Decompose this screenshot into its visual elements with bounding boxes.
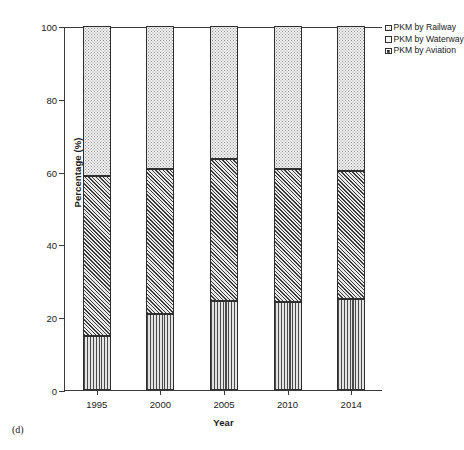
stacked-bar [146,26,174,390]
legend-swatch-icon [385,36,392,43]
bar-segment [274,26,302,169]
y-tick-label: 80 [46,94,57,105]
x-tick-mark [160,390,161,395]
bar-segment [210,301,238,390]
bar-segment [337,26,365,171]
panel-caption: (d) [12,424,24,435]
bar-segment [146,169,174,314]
bar-segment [274,302,302,390]
legend-item: PKM by Waterway [385,34,464,46]
bar-segment [146,314,174,390]
x-tick-label: 2010 [277,399,298,410]
plot-area: Percentage (%) 020406080100 199520002005… [64,27,382,391]
y-tick-mark [59,245,65,246]
bar-segment [146,26,174,169]
stacked-bar [337,26,365,390]
x-tick-mark [288,390,289,395]
stacked-bar [210,26,238,390]
y-tick-mark [59,318,65,319]
stacked-bar [83,26,111,390]
bar-segment [83,176,111,336]
bar-segment [337,299,365,390]
legend-swatch-icon [385,48,392,55]
y-tick-mark [59,27,65,28]
y-tick-label: 100 [41,22,57,33]
x-tick-label: 1995 [86,399,107,410]
y-axis-title: Percentage (%) [72,113,83,233]
legend-swatch-icon [385,25,392,32]
x-tick-mark [351,390,352,395]
x-axis-title: Year [65,417,382,428]
bar-segment [274,169,302,302]
legend-item: PKM by Aviation [385,45,464,57]
stacked-bar [274,26,302,390]
x-tick-label: 2014 [341,399,362,410]
bar-segment [210,26,238,159]
y-tick-mark [59,173,65,174]
x-tick-mark [224,390,225,395]
bar-segment [83,336,111,390]
x-tick-label: 2005 [213,399,234,410]
legend-item-label: PKM by Aviation [394,45,456,57]
legend: PKM by RailwayPKM by WaterwayPKM by Avia… [385,22,464,57]
bar-segment [337,171,365,299]
x-tick-mark [97,390,98,395]
y-tick-mark [59,100,65,101]
y-tick-label: 0 [52,386,57,397]
y-tick-label: 20 [46,313,57,324]
y-tick-mark [59,391,65,392]
legend-item-label: PKM by Railway [394,22,457,34]
y-tick-label: 60 [46,167,57,178]
bar-segment [83,26,111,176]
y-tick-label: 40 [46,240,57,251]
legend-item-label: PKM by Waterway [394,34,464,46]
x-tick-label: 2000 [150,399,171,410]
bar-segment [210,159,238,301]
legend-item: PKM by Railway [385,22,464,34]
